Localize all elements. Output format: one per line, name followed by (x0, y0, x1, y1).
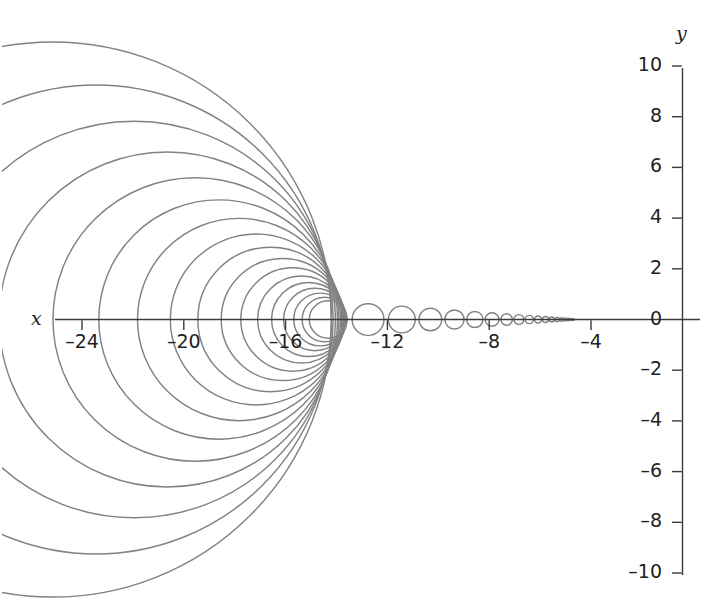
y-tick-label: 10 (580, 53, 662, 75)
x-tick-label: –16 (246, 330, 326, 352)
y-tick-label: 4 (580, 205, 662, 227)
y-tick-label: –8 (580, 509, 662, 531)
x-tick-label: –24 (42, 330, 122, 352)
y-tick-label: 2 (580, 256, 662, 278)
y-tick-label: –10 (580, 560, 662, 582)
y-tick-label: –6 (580, 459, 662, 481)
y-tick-label: –2 (580, 357, 662, 379)
y-tick-label: 0 (580, 307, 662, 329)
x-tick-label: –12 (347, 330, 427, 352)
x-tick-label: –20 (144, 330, 224, 352)
y-tick-label: 6 (580, 154, 662, 176)
y-tick-label: 8 (580, 104, 662, 126)
x-tick-label: –4 (551, 330, 631, 352)
y-tick-label: –4 (580, 408, 662, 430)
x-tick-label: –8 (449, 330, 529, 352)
x-axis-label: x (31, 307, 42, 329)
y-axis-label: y (676, 22, 687, 44)
figure-canvas: –24–20–16–12–8–4 1086420–2–4–6–8–10 x y (0, 0, 723, 615)
